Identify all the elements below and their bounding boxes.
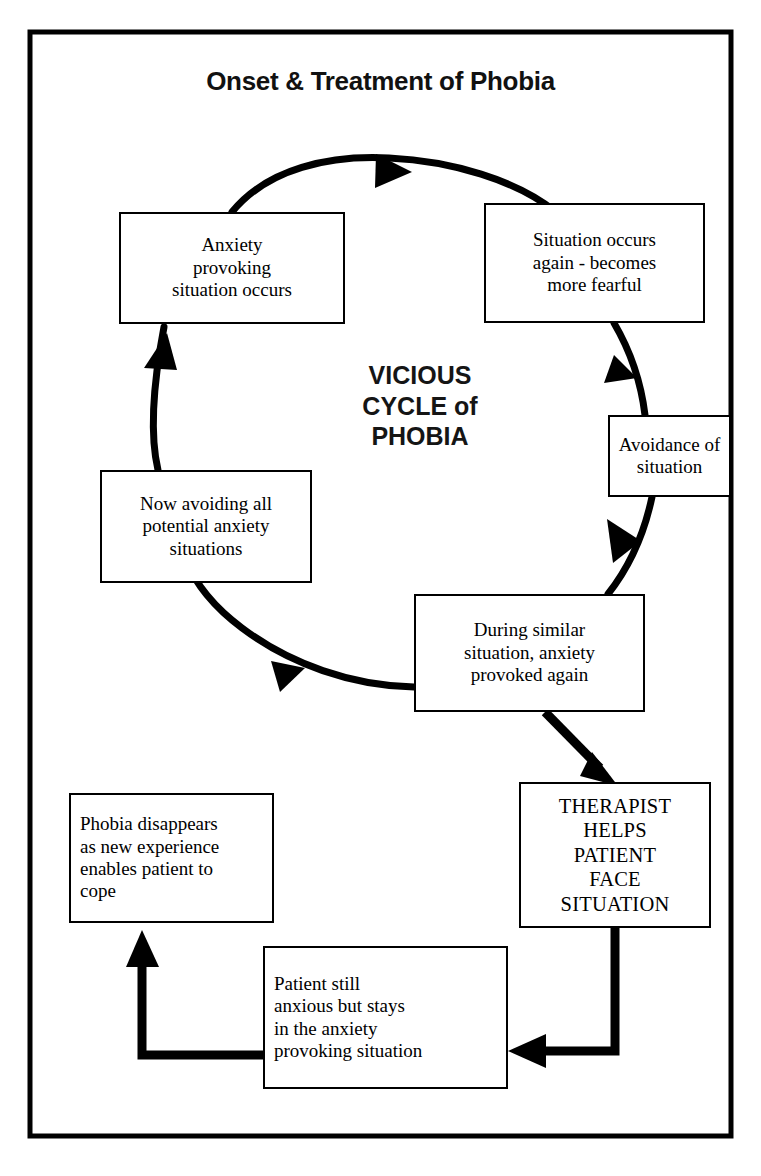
node-anxiety-provoking-situation[interactable]: Anxiety provoking situation occurs [119, 212, 345, 324]
node-avoidance-of-situation[interactable]: Avoidance of situation [608, 415, 731, 497]
node-avoidance-of-situation-label: Avoidance of situation [614, 434, 725, 479]
node-patient-still-anxious[interactable]: Patient still anxious but stays in the a… [263, 946, 508, 1089]
node-situation-occurs-again-label: Situation occurs again - becomes more fe… [490, 229, 699, 296]
node-phobia-disappears-label: Phobia disappears as new experience enab… [80, 813, 268, 903]
page-title: Onset & Treatment of Phobia [0, 66, 761, 97]
center-label-vicious-cycle: VICIOUS CYCLE of PHOBIA [329, 360, 511, 452]
node-phobia-disappears[interactable]: Phobia disappears as new experience enab… [69, 793, 274, 923]
node-situation-occurs-again[interactable]: Situation occurs again - becomes more fe… [484, 203, 705, 323]
node-therapist-helps-patient[interactable]: THERAPIST HELPS PATIENT FACE SITUATION [519, 782, 711, 928]
node-during-similar-situation[interactable]: During similar situation, anxiety provok… [414, 594, 645, 712]
node-now-avoiding-all[interactable]: Now avoiding all potential anxiety situa… [100, 470, 312, 583]
node-now-avoiding-all-label: Now avoiding all potential anxiety situa… [106, 493, 306, 560]
node-anxiety-provoking-situation-label: Anxiety provoking situation occurs [125, 234, 339, 301]
diagram-canvas: Onset & Treatment of Phobia VICIOUS CYCL… [0, 0, 761, 1176]
node-patient-still-anxious-label: Patient still anxious but stays in the a… [274, 973, 502, 1063]
node-therapist-helps-patient-label: THERAPIST HELPS PATIENT FACE SITUATION [525, 794, 705, 917]
node-during-similar-situation-label: During similar situation, anxiety provok… [420, 619, 639, 686]
